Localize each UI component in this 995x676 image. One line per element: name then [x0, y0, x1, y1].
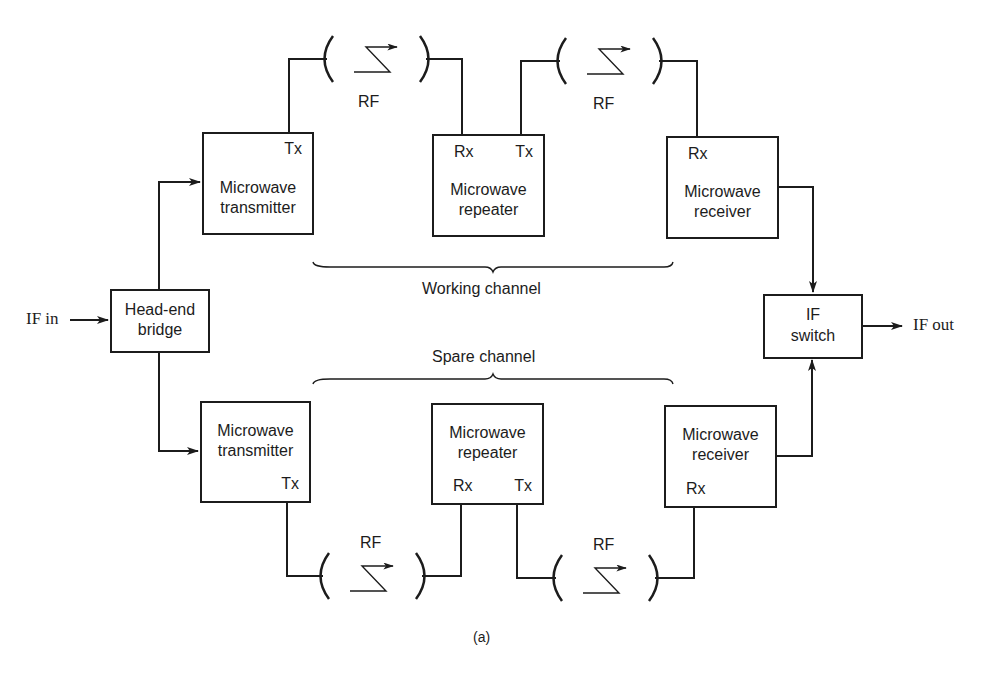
block-label: bridge	[112, 320, 208, 340]
spare-rep-rx-feed	[422, 504, 461, 576]
rf-signal-icon	[354, 47, 397, 72]
working-channel-brace	[313, 262, 673, 272]
figure-caption: (a)	[473, 627, 490, 647]
spare-channel-brace	[313, 374, 673, 384]
rf-signal-icon	[350, 566, 393, 591]
block-label: transmitter	[202, 441, 309, 461]
block-label: receiver	[666, 445, 775, 465]
rf-signal-icon	[587, 49, 630, 74]
antenna-dish-icon	[325, 36, 334, 82]
block-label: IF	[765, 305, 861, 325]
bridge-to-working-tx	[159, 182, 200, 289]
working-rx-to-switch	[778, 187, 813, 292]
rx-port-label: Rx	[686, 480, 706, 498]
protection-switching-diagram: IF in IF out Head-end bridge IF switch T…	[0, 0, 995, 676]
bridge-to-spare-tx	[159, 352, 198, 451]
block-label: receiver	[668, 202, 777, 222]
rx-port-label: Rx	[454, 143, 474, 161]
working-rep-tx-feed	[521, 61, 560, 134]
if-switch-block: IF switch	[763, 294, 863, 359]
antenna-dish-icon	[558, 38, 567, 84]
block-label: repeater	[433, 443, 542, 463]
tx-port-label: Tx	[281, 475, 299, 493]
block-label: Head-end	[112, 300, 208, 320]
block-label: repeater	[434, 200, 543, 220]
spare-channel-label: Spare channel	[432, 347, 535, 367]
working-receiver-block: Rx Microwave receiver	[666, 136, 779, 239]
antenna-dish-icon	[416, 553, 425, 599]
block-label: Microwave	[204, 178, 312, 198]
block-label: Microwave	[668, 182, 777, 202]
block-label: Microwave	[433, 423, 542, 443]
working-repeater-block: Rx Tx Microwave repeater	[432, 134, 545, 237]
rf-label: RF	[360, 533, 381, 553]
antenna-dish-icon	[420, 36, 429, 82]
working-rx-feed	[659, 61, 697, 136]
tx-port-label: Tx	[284, 140, 302, 158]
spare-tx-feed	[287, 502, 323, 576]
block-label: Microwave	[202, 421, 309, 441]
rf-signal-icon	[583, 568, 626, 593]
if-in-label: IF in	[26, 309, 59, 329]
rf-label: RF	[593, 535, 614, 555]
block-label: transmitter	[204, 198, 312, 218]
rf-label: RF	[358, 92, 379, 112]
working-rep-rx-feed	[426, 59, 462, 134]
spare-rx-feed	[655, 507, 694, 578]
spare-transmitter-block: Microwave transmitter Tx	[200, 401, 311, 503]
tx-port-label: Tx	[515, 143, 533, 161]
rx-port-label: Rx	[688, 145, 708, 163]
working-transmitter-block: Tx Microwave transmitter	[202, 132, 314, 235]
block-label: Microwave	[434, 180, 543, 200]
antenna-dish-icon	[321, 553, 330, 599]
antenna-dish-icon	[653, 38, 662, 84]
rf-label: RF	[593, 94, 614, 114]
block-label: switch	[765, 326, 861, 346]
antenna-dish-icon	[554, 555, 563, 601]
spare-receiver-block: Microwave receiver Rx	[664, 405, 777, 508]
spare-rx-to-switch	[776, 360, 812, 456]
if-out-label: IF out	[913, 315, 954, 335]
tx-port-label: Tx	[514, 477, 532, 495]
rx-port-label: Rx	[453, 477, 473, 495]
spare-repeater-block: Microwave repeater Rx Tx	[431, 403, 544, 505]
working-tx-feed	[289, 59, 327, 132]
working-channel-label: Working channel	[422, 279, 541, 299]
block-label: Microwave	[666, 425, 775, 445]
antenna-dish-icon	[649, 555, 658, 601]
spare-rep-tx-feed	[517, 504, 556, 578]
head-end-bridge-block: Head-end bridge	[110, 289, 210, 353]
